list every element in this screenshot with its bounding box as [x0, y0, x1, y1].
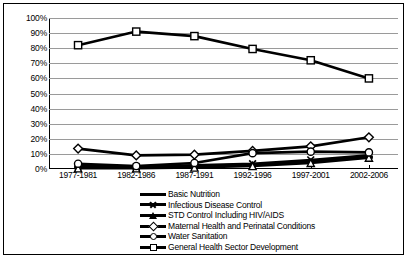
plot-area: 100%90%80%70%60%50%40%30%20%10%0% 1977-1…	[49, 18, 398, 169]
chart-frame: 100%90%80%70%60%50%40%30%20%10%0% 1977-1…	[3, 3, 404, 255]
legend-item[interactable]: Basic Nutrition	[140, 189, 315, 200]
data-point-marker	[74, 160, 81, 167]
y-axis-tick-label: 60%	[5, 74, 47, 82]
legend-x-marker-icon	[140, 200, 166, 210]
x-axis-tick-label: 1997-2001	[292, 171, 330, 180]
y-axis-tick-label: 100%	[5, 14, 47, 22]
y-axis-tick-label: 50%	[5, 90, 47, 98]
x-axis-tick-label: 2002-2006	[350, 171, 388, 180]
legend-dash-marker-icon	[140, 189, 166, 199]
data-point-marker	[249, 150, 256, 157]
legend-item[interactable]: General Health Sector Development	[140, 242, 315, 253]
legend-item-label: Maternal Health and Perinatal Conditions	[168, 221, 315, 232]
data-point-marker	[132, 151, 141, 160]
legend-item-label: Infectious Disease Control	[168, 200, 262, 211]
legend-diamond-marker-icon	[140, 221, 166, 231]
y-axis-tick-label: 70%	[5, 59, 47, 67]
y-axis-tick-label: 90%	[5, 29, 47, 37]
legend-square-marker-icon	[140, 242, 166, 252]
x-axis-tick-label: 1987-1991	[175, 171, 213, 180]
data-point-marker	[133, 162, 140, 169]
data-point-marker	[365, 149, 372, 156]
data-point-marker	[74, 144, 83, 153]
data-point-marker	[133, 28, 140, 35]
legend-item[interactable]: Maternal Health and Perinatal Conditions	[140, 221, 315, 232]
legend-item[interactable]: Infectious Disease Control	[140, 200, 315, 211]
legend-item[interactable]: STD Control Including HIV/AIDS	[140, 210, 315, 221]
y-axis-tick-label: 10%	[5, 150, 47, 158]
legend-circle-marker-icon	[140, 232, 166, 242]
data-point-marker	[191, 159, 198, 166]
data-point-marker	[307, 148, 314, 155]
chart-legend: Basic NutritionInfectious Disease Contro…	[140, 189, 315, 253]
series-general-health-sector-development	[74, 28, 372, 82]
legend-triangle-marker-icon	[140, 210, 166, 220]
legend-item-label: STD Control Including HIV/AIDS	[168, 210, 284, 221]
y-axis-tick-label: 0%	[5, 165, 47, 173]
data-point-marker	[249, 45, 256, 52]
data-point-marker	[365, 75, 372, 82]
data-point-marker	[307, 57, 314, 64]
data-point-marker	[191, 33, 198, 40]
data-point-marker	[190, 150, 199, 159]
legend-item-label: Basic Nutrition	[168, 189, 220, 200]
y-axis-tick-label: 80%	[5, 44, 47, 52]
y-axis-tick-label: 20%	[5, 135, 47, 143]
legend-item-label: Water Sanitation	[168, 231, 227, 242]
data-point-marker	[74, 42, 81, 49]
y-axis-tick-label: 30%	[5, 120, 47, 128]
x-axis-tick-label: 1992-1996	[234, 171, 272, 180]
y-axis-tick-label: 40%	[5, 105, 47, 113]
legend-item-label: General Health Sector Development	[168, 242, 298, 253]
legend-item[interactable]: Water Sanitation	[140, 231, 315, 242]
data-point-marker	[365, 133, 374, 142]
series-layer	[49, 18, 398, 169]
series-maternal-health-and-perinatal-conditions	[74, 133, 374, 160]
series-line	[78, 32, 369, 79]
